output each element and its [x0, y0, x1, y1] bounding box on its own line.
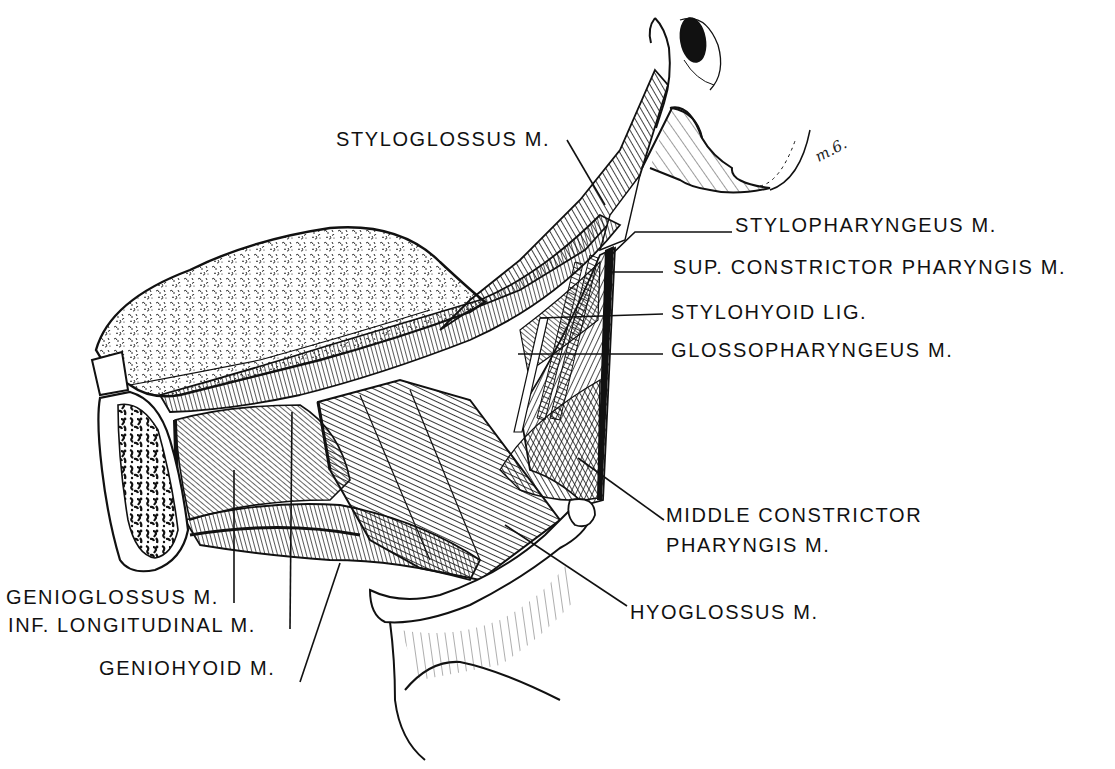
label-styloglossus: STYLOGLOSSUS M. [336, 127, 550, 150]
tongue-muscles-illustration [0, 0, 1115, 769]
anatomy-figure: STYLOGLOSSUS M. STYLOPHARYNGEUS M. SUP. … [0, 0, 1115, 769]
label-hyoglossus: HYOGLOSSUS M. [630, 600, 819, 623]
label-glossopharyngeus: GLOSSOPHARYNGEUS M. [671, 338, 953, 361]
label-geniohyoid: GENIOHYOID M. [99, 656, 275, 679]
label-stylohyoid-ligament: STYLOHYOID LIG. [671, 300, 867, 323]
label-stylopharyngeus: STYLOPHARYNGEUS M. [735, 213, 997, 236]
label-sup-constrictor-pharyngis: SUP. CONSTRICTOR PHARYNGIS M. [673, 255, 1066, 278]
label-middle-constrictor-line1: MIDDLE CONSTRICTOR [666, 503, 922, 526]
label-middle-constrictor-line2: PHARYNGIS M. [666, 533, 830, 556]
skull-base [642, 16, 810, 192]
label-genioglossus: GENIOGLOSSUS M. [6, 585, 219, 608]
label-inf-longitudinal: INF. LONGITUDINAL M. [8, 613, 256, 636]
